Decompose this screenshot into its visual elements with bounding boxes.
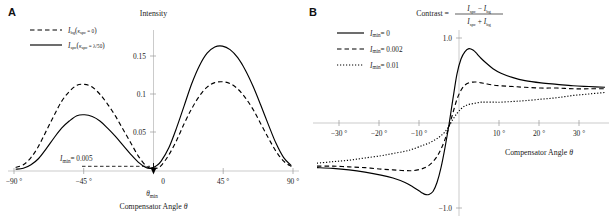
- legend-a-label-1: Ibg(κspc = 0): [67, 27, 97, 36]
- x-tick-label-a-1: −90 °: [6, 177, 22, 186]
- x-tick-label-b-4: 10 °: [493, 129, 505, 138]
- x-axis-title-a-symbol: θ: [184, 202, 188, 211]
- panel-a-letter: A: [8, 6, 16, 18]
- y-tick-label-b-2: −1.0: [439, 204, 453, 213]
- legend-b-label-1: Imin= 0: [369, 30, 390, 39]
- x-tick-label-a-4: 45 °: [217, 177, 229, 186]
- x-tick-label-b-1: −30 °: [331, 129, 347, 138]
- panel-a-plot: 0.15 0.1 0.05 Intensity −90 ° −45 ° 0 45…: [0, 0, 307, 224]
- x-tick-label-b-5: 20 °: [533, 129, 545, 138]
- x-axis-title-b-symbol: θ: [569, 148, 573, 157]
- y-ticks-a: [150, 56, 156, 132]
- legend-b-label-2: Imin= 0.002: [369, 46, 403, 55]
- y-axis-title-b: Contrast = Ispc − Ibg Ispc + Ibg: [416, 4, 503, 27]
- legend-a-label-2: Ispc(κspc = λ/50): [67, 42, 105, 51]
- y-axis-title-b-lead: Contrast =: [416, 9, 449, 18]
- y-tick-label-a-2: 0.1: [137, 90, 147, 99]
- x-tick-label-b-2: −20 °: [371, 129, 387, 138]
- x-tick-label-b-6: 30 °: [573, 129, 585, 138]
- y-axis-title-b-denominator: Ispc + Ibg: [466, 17, 491, 27]
- x-axis-title-a-prefix: Compensator Angle: [120, 202, 184, 211]
- panel-b-plot: 1.0 −1.0 Contrast = Ispc − Ibg Ispc + Ib…: [307, 0, 615, 224]
- y-tick-label-b-1: 1.0: [443, 34, 453, 43]
- y-axis-title-b-numerator: Ispc − Ibg: [466, 4, 491, 14]
- x-tick-label-b-3: −10 °: [411, 129, 427, 138]
- y-tick-label-a-3: 0.15: [133, 52, 146, 61]
- legend-b-label-3: Imin= 0.01: [369, 62, 399, 71]
- figure-container: A 0.15 0.1 0.05 Intensity: [0, 0, 615, 224]
- x-tick-label-a-3: 0: [161, 177, 165, 186]
- y-tick-label-a-1: 0.05: [133, 128, 146, 137]
- curve-b-imin-0: [317, 49, 605, 195]
- x-axis-title-b: Compensator Angle θ: [505, 148, 573, 157]
- panel-b-letter: B: [309, 6, 317, 18]
- x-axis-title-b-prefix: Compensator Angle: [505, 148, 569, 157]
- legend-b: Imin= 0 Imin= 0.002 Imin= 0.01: [337, 30, 403, 71]
- y-axis-title-a: Intensity: [140, 9, 167, 18]
- panel-a: A 0.15 0.1 0.05 Intensity: [0, 0, 307, 224]
- imin-annotation-label-a: Imin= 0.005: [59, 155, 93, 164]
- legend-a: Ibg(κspc = 0) Ispc(κspc = λ/50): [30, 27, 105, 51]
- curve-b-imin-0002: [317, 82, 605, 171]
- x-tick-label-a-5: 90 °: [287, 177, 299, 186]
- x-axis-title-a: Compensator Angle θ: [120, 202, 188, 211]
- x-tick-label-a-2: −45 °: [76, 177, 92, 186]
- panel-b: B 1.0 −1.0 Contrast = Ispc − Ibg Ispc + …: [307, 0, 615, 224]
- thetamin-label-a: θmin: [146, 190, 158, 199]
